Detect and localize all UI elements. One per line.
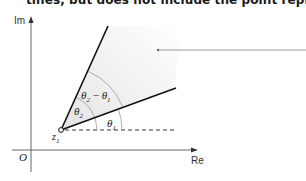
re-axis-arrow-icon xyxy=(191,148,198,153)
im-axis-arrow-icon xyxy=(29,16,34,23)
im-label: Im xyxy=(14,15,25,26)
origin-label: O xyxy=(19,151,27,163)
z1-label: z1 xyxy=(51,131,59,145)
theta1-arc xyxy=(118,109,122,130)
z1-point xyxy=(59,128,64,133)
argument-region-diagram: Im Re O z1 θ1 θ2 θ2 − θ1 xyxy=(0,0,306,181)
re-label: Re xyxy=(191,155,204,166)
callout-dot xyxy=(157,49,159,51)
